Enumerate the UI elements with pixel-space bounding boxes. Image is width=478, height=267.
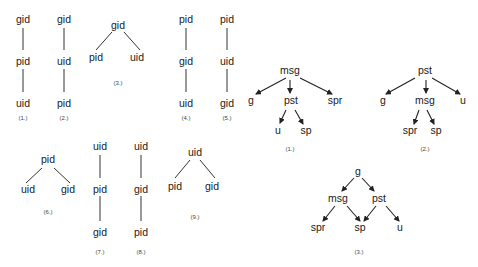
node: g bbox=[355, 165, 361, 177]
node: gid bbox=[134, 183, 148, 195]
node: pst bbox=[372, 192, 386, 204]
node: u bbox=[275, 124, 281, 136]
tree-5: pid uid gid (5.) bbox=[220, 13, 234, 121]
node: pid bbox=[16, 55, 30, 67]
node: pid bbox=[41, 153, 55, 165]
node: g bbox=[380, 94, 386, 106]
node: spr bbox=[403, 124, 418, 136]
node: g bbox=[248, 94, 254, 106]
node: msg bbox=[415, 94, 435, 106]
tree-label: (1.) bbox=[19, 115, 28, 121]
node: pid bbox=[134, 226, 148, 238]
graph-label: (2.) bbox=[421, 146, 430, 152]
node: uid bbox=[188, 146, 202, 158]
node: uid bbox=[57, 55, 71, 67]
node: pid bbox=[179, 13, 193, 25]
tree-label: (2.) bbox=[60, 115, 69, 121]
node: pid bbox=[220, 13, 234, 25]
node: gid bbox=[16, 13, 30, 25]
node: msg bbox=[280, 64, 300, 76]
tree-label: (7.) bbox=[96, 249, 105, 255]
graph-label: (1.) bbox=[286, 146, 295, 152]
node: pid bbox=[89, 51, 103, 63]
node: pst bbox=[284, 94, 298, 106]
node: gid bbox=[205, 180, 219, 192]
diagram-canvas: gid pid uid (1.) gid uid pid (2.) gid pi… bbox=[0, 0, 478, 267]
node: pst bbox=[418, 64, 432, 76]
directed-graph-2: pst g msg u spr sp (2.) bbox=[380, 64, 466, 152]
node: msg bbox=[328, 192, 348, 204]
tree-3: gid pid uid (3.) bbox=[89, 19, 144, 86]
graph-label: (3.) bbox=[355, 249, 364, 255]
node: uid bbox=[134, 140, 148, 152]
node: u bbox=[460, 94, 466, 106]
tree-8: uid gid pid (8.) bbox=[134, 140, 148, 255]
node: gid bbox=[179, 55, 193, 67]
node: uid bbox=[16, 97, 30, 109]
tree-7: uid pid gid (7.) bbox=[93, 140, 107, 255]
node: pid bbox=[93, 183, 107, 195]
tree-1: gid pid uid (1.) bbox=[16, 13, 30, 121]
tree-9: uid pid gid (9.) bbox=[168, 146, 219, 220]
node: gid bbox=[93, 226, 107, 238]
tree-4: pid gid uid (4.) bbox=[179, 13, 193, 121]
tree-2: gid uid pid (2.) bbox=[57, 13, 71, 121]
node: sp bbox=[430, 124, 441, 136]
tree-label: (3.) bbox=[114, 80, 123, 86]
node: spr bbox=[311, 221, 326, 233]
node: uid bbox=[130, 51, 144, 63]
node: gid bbox=[220, 97, 234, 109]
directed-graph-3: g msg pst spr sp u (3.) bbox=[311, 165, 403, 255]
tree-label: (4.) bbox=[182, 115, 191, 121]
node: sp bbox=[300, 124, 311, 136]
directed-graph-1: msg g pst spr u sp (1.) bbox=[248, 64, 343, 152]
node: uid bbox=[220, 55, 234, 67]
node: pid bbox=[57, 97, 71, 109]
tree-label: (5.) bbox=[223, 115, 232, 121]
node: pid bbox=[168, 180, 182, 192]
tree-6: pid uid gid (6.) bbox=[21, 153, 75, 215]
node: gid bbox=[61, 183, 75, 195]
node: uid bbox=[21, 183, 35, 195]
node: spr bbox=[328, 94, 343, 106]
tree-label: (6.) bbox=[44, 209, 53, 215]
node: uid bbox=[93, 140, 107, 152]
node: uid bbox=[179, 97, 193, 109]
node: gid bbox=[111, 19, 125, 31]
node: u bbox=[397, 221, 403, 233]
tree-label: (9.) bbox=[191, 214, 200, 220]
tree-label: (8.) bbox=[137, 249, 146, 255]
node: sp bbox=[354, 221, 365, 233]
node: gid bbox=[57, 13, 71, 25]
